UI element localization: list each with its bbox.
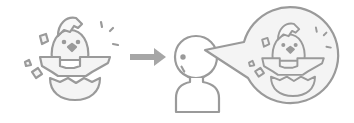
chick-hatching-icon <box>25 18 118 100</box>
arrow-right-icon <box>130 48 166 66</box>
illustration <box>0 0 354 123</box>
